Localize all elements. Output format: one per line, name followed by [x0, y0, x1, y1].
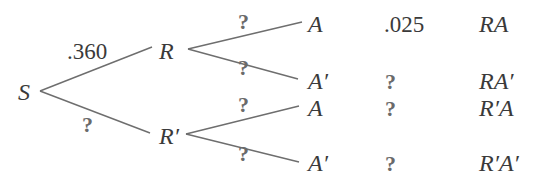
node-r-prime: R′: [158, 123, 180, 149]
joint-prob-ra: .025: [384, 12, 424, 37]
joint-prob-ra-prime: ?: [385, 69, 396, 94]
edge-s-to-r-prime: [40, 91, 150, 133]
node-r: R: [158, 38, 174, 64]
joint-prob-r-prime-a-prime: ?: [385, 151, 396, 176]
joint-prob-r-prime-a: ?: [385, 96, 396, 121]
outcome-r-prime-a: R′A: [478, 95, 514, 121]
outcome-ra-prime: RA′: [478, 68, 514, 94]
outcome-r-prime-a-prime: R′A′: [478, 150, 520, 176]
leaf-a-prime-1: A′: [306, 68, 329, 94]
leaf-a-2: A: [306, 95, 323, 121]
edge-prob-r-a: ?: [238, 9, 249, 34]
edge-prob-s-r: .360: [67, 39, 107, 64]
leaf-a-prime-2: A′: [306, 150, 329, 176]
edge-prob-r-prime-a-prime: ?: [238, 141, 249, 166]
edge-prob-r-prime-a: ?: [238, 92, 249, 117]
edge-prob-r-a-prime: ?: [238, 55, 249, 80]
root-node-s: S: [18, 79, 30, 105]
probability-tree-diagram: S .360 ? R R′ ? ? ? ? A A′ A A′ .025 ? ?…: [0, 0, 534, 187]
edge-prob-s-r-prime: ?: [82, 112, 93, 137]
leaf-a-1: A: [306, 11, 323, 37]
outcome-ra: RA: [478, 11, 509, 37]
